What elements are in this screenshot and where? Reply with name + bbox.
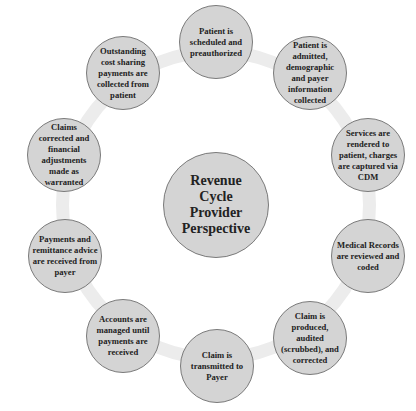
- step-label: Medical Records are reviewed and coded: [332, 240, 404, 273]
- step-label: Claim is transmitted to Payer: [183, 350, 251, 383]
- step-label: Claim is produced, audited (scrubbed), a…: [274, 311, 346, 366]
- step-node-services-rendered: Services are rendered to patient, charge…: [331, 118, 405, 192]
- step-label: Services are rendered to patient, charge…: [332, 128, 404, 183]
- step-node-claims-corrected: Claims corrected and financial adjustmen…: [27, 118, 101, 192]
- step-label: Accounts are managed until payments are …: [89, 314, 157, 358]
- revenue-cycle-diagram: Revenue Cycle Provider Perspective Patie…: [0, 0, 416, 411]
- step-node-claim-transmitted: Claim is transmitted to Payer: [180, 329, 254, 403]
- step-node-payments-received: Payments and remittance advice are recei…: [28, 219, 102, 293]
- center-label: Revenue Cycle Provider Perspective: [173, 173, 259, 237]
- step-label: Patient is admitted, demographic and pay…: [279, 40, 341, 106]
- step-label: Claims corrected and financial adjustmen…: [33, 122, 95, 188]
- step-label: Outstanding cost sharing payments are co…: [91, 46, 155, 101]
- step-node-admitted: Patient is admitted, demographic and pay…: [273, 36, 347, 110]
- center-node: Revenue Cycle Provider Perspective: [163, 152, 269, 258]
- step-node-records-coded: Medical Records are reviewed and coded: [331, 219, 405, 293]
- step-node-cost-sharing-collected: Outstanding cost sharing payments are co…: [86, 36, 160, 110]
- step-node-claim-produced: Claim is produced, audited (scrubbed), a…: [273, 301, 347, 375]
- step-node-scheduled: Patient is scheduled and preauthorized: [179, 5, 253, 79]
- step-label: Patient is scheduled and preauthorized: [184, 26, 248, 59]
- step-label: Payments and remittance advice are recei…: [29, 234, 101, 278]
- step-node-accounts-managed: Accounts are managed until payments are …: [86, 299, 160, 373]
